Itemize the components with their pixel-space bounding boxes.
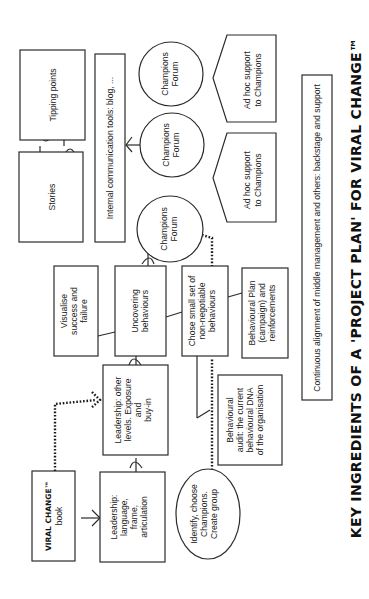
label-internal-comm: Internal communication tools: blog, ... (105, 77, 115, 219)
connector-chose-plan (228, 293, 242, 297)
label-continuous: Continuous alignment of middle managemen… (312, 84, 322, 392)
label-identify: Identify, chooseChampions.Create group (189, 484, 219, 544)
label-adhoc-1: Ad hoc supportto Champions (242, 50, 263, 108)
label-adhoc-2: Ad hoc supportto Champions (242, 150, 263, 208)
label-uncovering: Uncoveringbehaviours (130, 289, 150, 333)
connector-leadership-uncovering (129, 359, 141, 365)
dotted-book-leadership (55, 400, 96, 471)
label-behavioural-plan: Behavioural Plan(campaign) andreinforcem… (247, 280, 277, 345)
connector-uncovering-chose (166, 312, 182, 317)
viral-change-diagram: Tipping points Stories Internal communic… (0, 0, 369, 599)
dotted-arrowhead (91, 392, 100, 408)
label-stories: Stories (47, 184, 57, 211)
diagram-title: KEY INGREDIENTS OF A 'PROJECT PLAN' FOR … (348, 38, 364, 539)
connector-visualise-uncovering (98, 332, 115, 336)
label-tipping-points: Tipping points (48, 68, 58, 121)
dotted-forum-chose (202, 235, 212, 266)
